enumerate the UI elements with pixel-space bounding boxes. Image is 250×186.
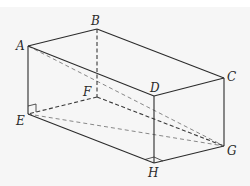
edge-CD [154,78,224,96]
edge-BC [97,29,224,78]
vertex-label-G: G [227,144,237,158]
vertex-label-F: F [82,85,92,99]
vertex-label-D: D [149,81,160,95]
edge-HG [154,146,224,163]
vertex-label-B: B [90,14,100,28]
edge-AB [28,29,97,46]
cuboid-diagram: A B C D E F G H [0,0,250,186]
diagonal-AG [28,46,224,146]
diagram-canvas: A B C D E F G H [0,0,250,186]
diagonal-EG [28,114,224,146]
vertex-label-H: H [147,166,159,180]
hidden-edge-FG [97,97,224,146]
vertex-label-A: A [15,39,25,53]
edge-EH [28,114,154,163]
vertex-label-C: C [227,70,236,84]
hidden-edge-FE [28,97,97,114]
vertex-label-E: E [15,114,25,128]
right-angle-marker-E [28,104,36,112]
